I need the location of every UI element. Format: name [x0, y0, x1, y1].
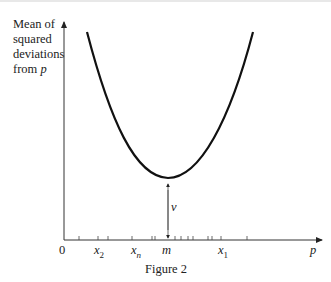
- x2-label: x2: [94, 243, 104, 260]
- x1-label: x1: [218, 243, 228, 260]
- data-point-ticks: [79, 236, 247, 240]
- mse-curve: [87, 32, 253, 178]
- plot-area: [0, 0, 331, 282]
- xn-label: xn: [131, 243, 141, 260]
- p-axis-label: p: [310, 243, 316, 258]
- v-label: v: [171, 200, 177, 215]
- origin-label: 0: [59, 243, 65, 258]
- m-label: m: [162, 243, 171, 258]
- figure-caption: Figure 2: [145, 262, 187, 277]
